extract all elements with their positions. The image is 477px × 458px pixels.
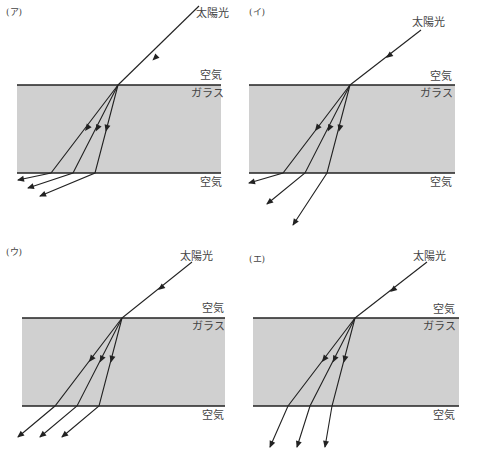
air-label-top: 空気 [200, 68, 222, 82]
panel-e: (エ)太陽光空気ガラス空気 [249, 249, 459, 448]
incident-ray [355, 262, 427, 318]
incident-ray [350, 30, 421, 85]
exit-arrow-icon [248, 178, 256, 184]
incident-ray [118, 6, 199, 85]
incident-ray [122, 262, 192, 318]
panel-a: (ア)太陽光空気ガラス空気 [6, 6, 229, 197]
glass-label: ガラス [191, 87, 224, 100]
panel-label: (エ) [249, 254, 265, 264]
exit-arrow-icon [296, 440, 302, 448]
exit-arrow-icon [293, 218, 299, 226]
panel-label: (ア) [6, 7, 22, 17]
air-label-bottom: 空気 [200, 175, 222, 189]
exit-arrow-icon [27, 183, 34, 189]
air-label-top: 空気 [202, 301, 224, 315]
air-label-bottom: 空気 [202, 408, 224, 422]
panel-i: (イ)太陽光空気ガラス空気 [248, 7, 455, 226]
air-label-bottom: 空気 [430, 175, 452, 189]
incident-arrow-icon [152, 54, 159, 61]
glass-label: ガラス [423, 320, 456, 333]
air-label-bottom: 空気 [433, 408, 455, 422]
glass-label: ガラス [420, 87, 453, 100]
sunlight-label: 太陽光 [196, 6, 229, 20]
panel-u: (ウ)太陽光空気ガラス空気 [6, 247, 225, 438]
air-label-top: 空気 [430, 69, 452, 83]
panel-label: (イ) [249, 7, 265, 17]
exit-arrow-icon [323, 441, 329, 448]
sunlight-label: 太陽光 [412, 15, 445, 29]
panel-label: (ウ) [6, 247, 22, 257]
refraction-diagram: (ア)太陽光空気ガラス空気(イ)太陽光空気ガラス空気(ウ)太陽光空気ガラス空気(… [0, 0, 477, 458]
exit-arrow-icon [17, 176, 25, 182]
sunlight-label: 太陽光 [413, 249, 446, 263]
sunlight-label: 太陽光 [180, 249, 213, 263]
glass-label: ガラス [192, 320, 225, 333]
air-label-top: 空気 [433, 302, 455, 316]
